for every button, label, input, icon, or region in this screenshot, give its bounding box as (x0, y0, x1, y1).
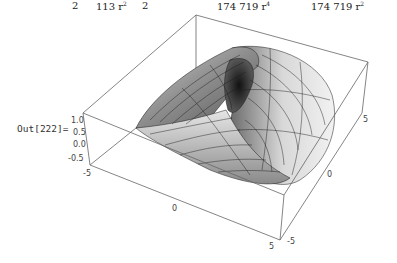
svg-text:0.5: 0.5 (73, 128, 86, 137)
svg-text:-0.5: -0.5 (68, 154, 84, 163)
surface-plot-3d[interactable]: 1.0 0.5 0.0 -0.5 -5 0 5 -5 0 5 (0, 0, 397, 263)
svg-text:5: 5 (363, 115, 368, 124)
svg-text:1.0: 1.0 (71, 116, 84, 125)
svg-text:0: 0 (172, 204, 177, 213)
surface (136, 46, 335, 184)
svg-text:5: 5 (269, 242, 274, 251)
z-axis-ticks: 1.0 0.5 0.0 -0.5 (68, 116, 86, 163)
svg-text:-5: -5 (287, 237, 295, 246)
svg-text:0.0: 0.0 (73, 140, 86, 149)
svg-text:-5: -5 (83, 169, 91, 178)
svg-text:0: 0 (327, 170, 332, 179)
